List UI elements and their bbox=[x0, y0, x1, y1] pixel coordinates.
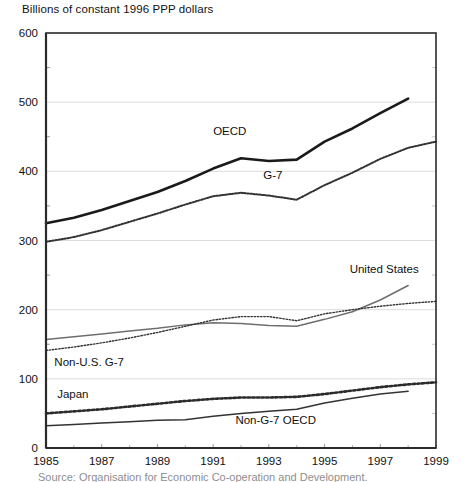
x-tick-label: 1985 bbox=[33, 455, 59, 467]
y-tick-label: 400 bbox=[19, 165, 38, 177]
x-tick-label: 1987 bbox=[89, 455, 115, 467]
x-tick-label: 1997 bbox=[367, 455, 393, 467]
y-tick-label: 200 bbox=[19, 304, 38, 316]
y-tick-label: 0 bbox=[32, 442, 38, 454]
x-tick-label: 1995 bbox=[312, 455, 338, 467]
series-line-oecd bbox=[46, 99, 408, 224]
source-footnote: Source: Organisation for Economic Co-ope… bbox=[38, 471, 458, 482]
x-tick-label: 1991 bbox=[200, 455, 226, 467]
series-line-g-7 bbox=[46, 142, 436, 242]
x-tick-label: 1999 bbox=[423, 455, 449, 467]
series-label-g-7: G-7 bbox=[263, 169, 282, 181]
x-tick-label: 1993 bbox=[256, 455, 282, 467]
series-label-non-u-s-g-7: Non-U.S. G-7 bbox=[54, 356, 124, 368]
series-label-oecd: OECD bbox=[213, 125, 246, 137]
gridlines bbox=[46, 102, 436, 379]
y-tick-label: 100 bbox=[19, 373, 38, 385]
chart-figure: Billions of constant 1996 PPP dollars 01… bbox=[0, 0, 463, 482]
x-tick-label: 1989 bbox=[145, 455, 171, 467]
y-tick-label: 300 bbox=[19, 235, 38, 247]
y-axis-tick-labels: 0100200300400500600 bbox=[19, 27, 38, 454]
y-tick-label: 500 bbox=[19, 96, 38, 108]
series-label-united-states: United States bbox=[350, 263, 419, 275]
series-label-japan: Japan bbox=[57, 388, 88, 400]
x-axis-tick-labels: 19851987198919911993199519971999 bbox=[33, 455, 449, 467]
series-line-united-states bbox=[46, 285, 408, 339]
series-line-non-u-s-g-7 bbox=[46, 301, 436, 350]
line-chart-plot: 0100200300400500600 19851987198919911993… bbox=[0, 0, 463, 482]
series-line-japan bbox=[46, 382, 436, 413]
series-label-non-g-7-oecd: Non-G-7 OECD bbox=[235, 414, 316, 426]
y-tick-label: 600 bbox=[19, 27, 38, 39]
series-annotations: OECDG-7United StatesNon-U.S. G-7JapanNon… bbox=[54, 125, 419, 425]
